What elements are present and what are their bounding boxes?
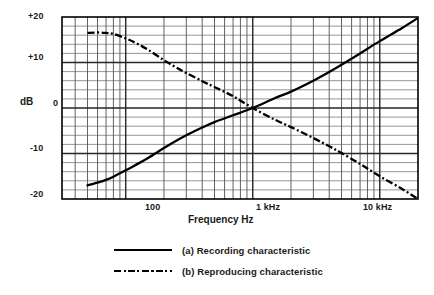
y-tick-label-minus10: -10 [30, 143, 43, 153]
legend-item-recording: (a) Recording characteristic [114, 243, 310, 257]
legend-item-reproducing: (b) Reproducing characteristic [114, 264, 323, 278]
x-tick-label-1khz: 1 kHz [256, 202, 280, 212]
chart-figure: +20 +10 0 -10 -20 dB 100 1 kHz 10 kHz Fr… [0, 0, 434, 295]
y-tick-label-plus10: +10 [28, 52, 44, 62]
x-tick-label-10khz: 10 kHz [363, 202, 392, 212]
legend-swatch-solid-icon [114, 245, 172, 255]
x-axis-title: Frequency Hz [188, 214, 254, 225]
y-tick-label-minus20: -20 [30, 189, 43, 199]
y-axis-title: dB [20, 96, 33, 107]
legend-swatch-dashdot-icon [114, 266, 172, 276]
legend-label-recording: (a) Recording characteristic [182, 245, 310, 256]
y-tick-label-zero: 0 [53, 98, 58, 108]
x-tick-label-100hz: 100 [145, 202, 160, 212]
legend-label-reproducing: (b) Reproducing characteristic [182, 266, 323, 277]
y-tick-label-plus20: +20 [28, 11, 44, 21]
